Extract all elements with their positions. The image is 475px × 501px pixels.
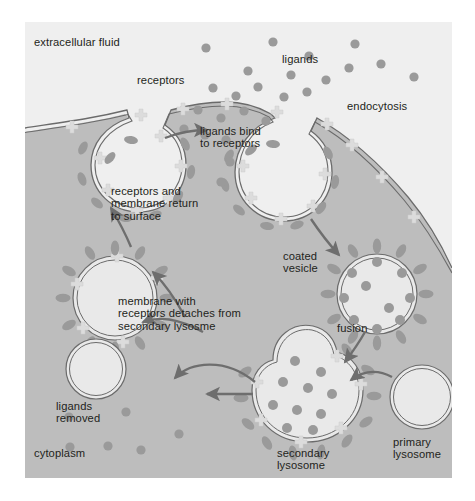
label-extracellular-fluid: extracellular fluid	[34, 36, 120, 48]
label-receptors: receptors	[137, 74, 185, 86]
label-endocytosis: endocytosis	[347, 100, 407, 112]
label-fusion: fusion	[337, 322, 367, 334]
label-membrane-detaches: membrane with receptors detaches from se…	[118, 295, 241, 332]
label-ligands: ligands	[282, 53, 318, 65]
label-primary-lysosome: primary lysosome	[393, 436, 441, 461]
label-ligands-removed: ligands removed	[56, 400, 100, 425]
label-receptors-return: receptors and membrane return to surface	[111, 185, 198, 222]
label-cytoplasm: cytoplasm	[34, 447, 85, 459]
label-ligands-bind: ligands bind to receptors	[200, 125, 261, 150]
diagram-canvas: extracellular fluid cytoplasm receptors …	[0, 0, 475, 501]
label-coated-vesicle: coated vesicle	[283, 250, 318, 275]
label-secondary-lysosome: secondary lysosome	[277, 447, 330, 472]
primary-lysosome	[390, 365, 452, 429]
empty-vesicle	[66, 339, 126, 399]
diagram-frame: extracellular fluid cytoplasm receptors …	[25, 22, 452, 478]
